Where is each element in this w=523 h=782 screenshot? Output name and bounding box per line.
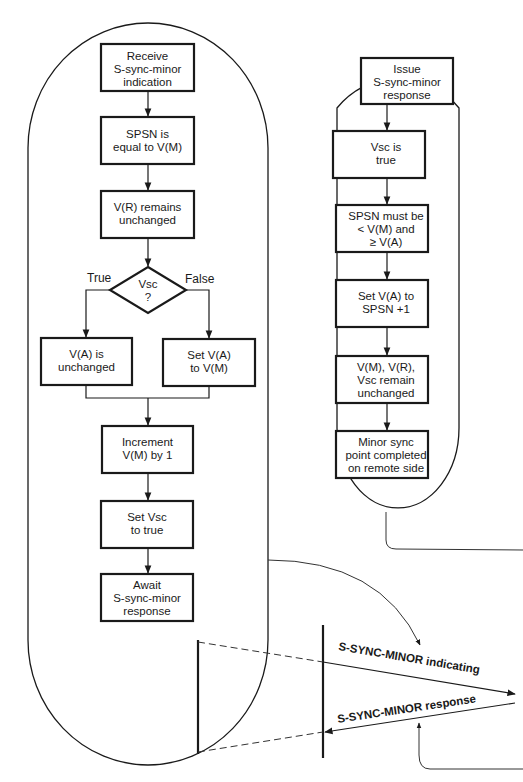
- indication-label: S-SYNC-MINOR indicating: [338, 640, 481, 675]
- vsc-decision-diamond: [110, 267, 186, 313]
- false-label: False: [185, 272, 215, 286]
- response-pointer-arrow: [419, 723, 523, 769]
- svg-text:Set Vscto true: Set Vscto true: [127, 511, 167, 536]
- left-flowchart: ReceiveS-sync-minorindication SPSN isequ…: [41, 44, 255, 621]
- svg-text:Set V(A)to V(M): Set V(A)to V(M): [187, 349, 231, 374]
- svg-text:V(M), V(R),Vsc remainunchanged: V(M), V(R),Vsc remainunchanged: [357, 361, 415, 399]
- svg-text:Set V(A) toSPSN +1: Set V(A) toSPSN +1: [358, 290, 414, 315]
- right-flowchart: IssueS-sync-minorresponse Vsc istrue SPS…: [333, 58, 453, 478]
- right-pill-connector: [386, 512, 523, 550]
- svg-text:V(R) remainsunchanged: V(R) remainsunchanged: [114, 201, 182, 226]
- sync-minor-diagram: ReceiveS-sync-minorindication SPSN isequ…: [0, 0, 523, 782]
- indication-pointer-arrow: [268, 560, 420, 645]
- indication-arrow: [323, 662, 515, 694]
- true-label: True: [87, 271, 112, 285]
- svg-text:IncrementV(M) by 1: IncrementV(M) by 1: [122, 436, 174, 461]
